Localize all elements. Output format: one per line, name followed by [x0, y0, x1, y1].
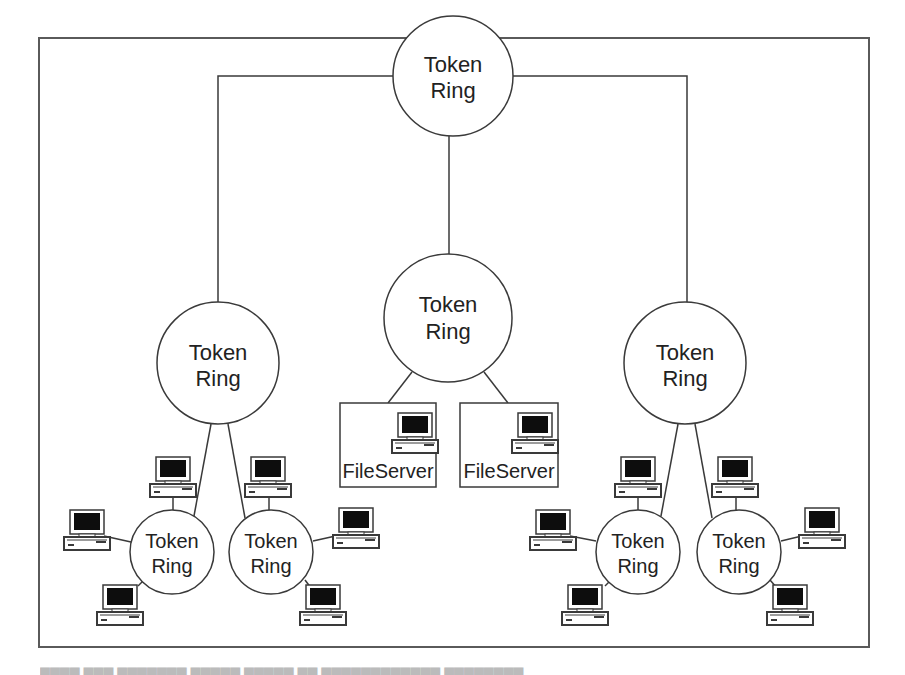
ring-label: Token [656, 340, 715, 365]
ring-label: Token [244, 530, 297, 552]
ring-label: Ring [718, 555, 759, 577]
workstation-computer-icon [562, 585, 608, 625]
token-ring-bottom-left-1: Token Ring [130, 510, 214, 594]
workstation-computer-icon [799, 508, 845, 548]
token-ring-top: Token Ring [393, 16, 513, 136]
server-label: FileServer [342, 460, 433, 482]
ring-label: Token [424, 52, 483, 77]
figure-caption-cutoff: ▀▀▀▀ ▀▀▀ ▀▀▀▀▀▀▀ ▀▀▀▀▀ ▀▀▀▀▀ ▀▀ ▀▀▀▀▀▀▀▀… [40, 667, 600, 675]
server-computer-icon [392, 413, 438, 453]
fileserver-box-2: FileServer [460, 403, 558, 487]
token-ring-left: Token Ring [157, 302, 279, 424]
network-diagram: Token Ring Token Ring Token Ring Token R… [0, 0, 905, 675]
workstation-computer-icon [64, 510, 110, 550]
token-ring-bottom-right-1: Token Ring [596, 510, 680, 594]
workstation-computer-icon [530, 510, 576, 550]
workstation-computer-icon [245, 457, 291, 497]
workstation-computer-icon [150, 457, 196, 497]
workstation-computer-icon [767, 585, 813, 625]
server-label: FileServer [463, 460, 554, 482]
ring-label: Token [189, 340, 248, 365]
workstation-computer-icon [300, 585, 346, 625]
ring-label: Ring [425, 319, 470, 344]
ring-label: Ring [250, 555, 291, 577]
ring-label: Ring [151, 555, 192, 577]
ring-label: Ring [195, 366, 240, 391]
ring-label: Ring [617, 555, 658, 577]
workstation-computer-icon [712, 457, 758, 497]
workstation-computer-icon [615, 457, 661, 497]
ring-label: Token [145, 530, 198, 552]
ring-label: Ring [662, 366, 707, 391]
ring-label: Token [611, 530, 664, 552]
token-ring-right: Token Ring [624, 302, 746, 424]
ring-label: Token [419, 292, 478, 317]
workstation-computer-icon [333, 508, 379, 548]
ring-label: Token [712, 530, 765, 552]
fileserver-box-1: FileServer [340, 403, 438, 487]
workstation-computer-icon [97, 585, 143, 625]
token-ring-bottom-left-2: Token Ring [229, 510, 313, 594]
server-computer-icon [512, 413, 558, 453]
ring-label: Ring [430, 78, 475, 103]
token-ring-middle: Token Ring [384, 254, 512, 382]
token-ring-bottom-right-2: Token Ring [697, 510, 781, 594]
